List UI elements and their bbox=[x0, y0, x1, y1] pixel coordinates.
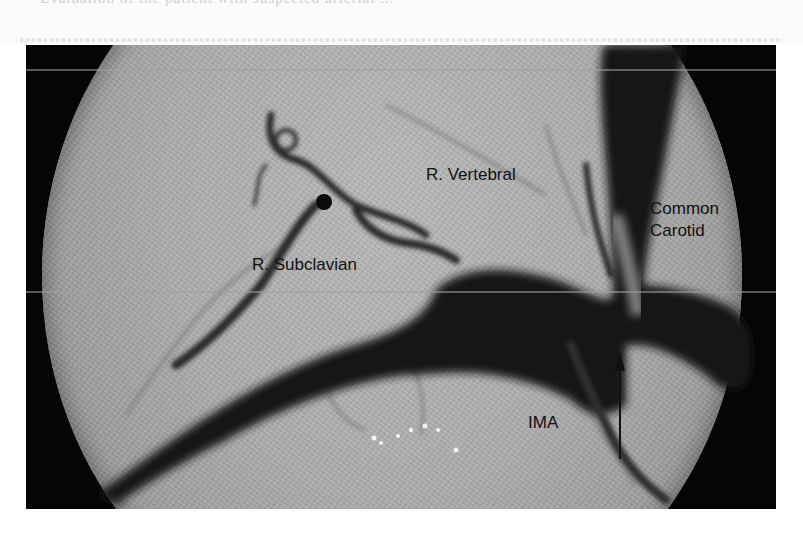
cropped-text-line bbox=[20, 38, 783, 42]
label-r-vertebral: R. Vertebral bbox=[426, 165, 516, 185]
angiogram-image: R. Vertebral Common Carotid R. Subclavia… bbox=[26, 45, 776, 509]
label-common-carotid-line1: Common bbox=[650, 199, 719, 219]
cropped-page-header: Evaluation of the patient with suspected… bbox=[0, 0, 803, 44]
label-r-subclavian: R. Subclavian bbox=[252, 255, 357, 275]
vessel-tree-graphic bbox=[26, 45, 776, 509]
scan-artifact-line bbox=[26, 69, 776, 71]
arrow-up-icon bbox=[615, 351, 625, 461]
label-common-carotid-line2: Carotid bbox=[650, 221, 705, 241]
scan-artifact-line bbox=[26, 291, 776, 293]
label-ima: IMA bbox=[528, 413, 558, 433]
cropped-text-fragment: Evaluation of the patient with suspected… bbox=[40, 0, 395, 7]
vessel-dot bbox=[316, 194, 332, 210]
